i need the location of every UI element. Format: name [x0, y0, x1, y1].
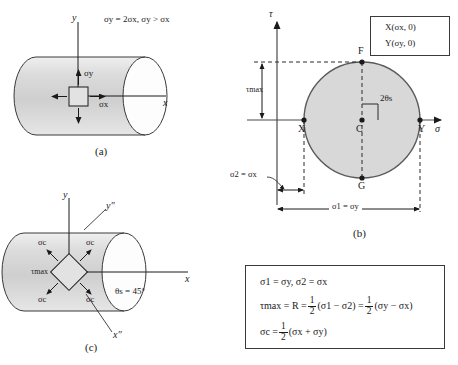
figure-b-tau-max-label: τmax	[246, 86, 263, 94]
equation-line-2: τmax = R =12(σ1 − σ2) =12(σy − σx)	[260, 296, 413, 317]
fraction-one-half-a: 12	[308, 296, 317, 317]
equation-line-3-lhs: σc =	[260, 326, 278, 337]
figure-a-drawing	[0, 0, 229, 182]
figure-b-point-f-label: F	[358, 46, 364, 56]
figure-b-caption: (b)	[353, 228, 366, 239]
fraction-one-half-c: 12	[279, 322, 288, 343]
figure-b-axis-tau-label: τ	[269, 9, 273, 19]
equation-line-2-rhs: (σy − σx)	[374, 300, 412, 311]
equation-line-2-mid: (σ1 − σ2) =	[317, 300, 363, 311]
legend-point-x: X(σx, 0)	[385, 23, 416, 32]
figure-a-caption: (a)	[95, 146, 107, 157]
figure-b-point-x-label: X	[298, 124, 305, 134]
figure-b-point-y-label: Y	[418, 124, 425, 134]
figure-b-point-c-label: C	[356, 124, 363, 134]
legend-point-y: Y(σy, 0)	[385, 39, 415, 48]
figure-c-theta-label: θs = 45°	[115, 287, 145, 296]
fraction-denominator-c: 2	[279, 333, 288, 343]
fraction-denominator-a: 2	[308, 307, 317, 317]
figure-b: τ σ X Y C F G 2θs τmax σ2 = σx σ1 = σy X…	[229, 0, 458, 250]
figure-c-axis-x-double-prime-label: x″	[113, 330, 122, 340]
figure-a-condition-text: σy = 2σx, σy > σx	[104, 15, 170, 24]
figure-a-sigma-y-label: σy	[84, 69, 93, 78]
figure-a-sigma-x-label: σx	[99, 100, 108, 109]
figure-c-sigma-c-top-left: σc	[38, 238, 46, 247]
figure-c-sigma-c-bottom-left: σc	[38, 295, 46, 304]
figure-b-dim-sigma1-label: σ1 = σy	[329, 202, 362, 211]
figure-c-sigma-c-top-right: σc	[86, 238, 94, 247]
equation-line-1: σ1 = σy, σ2 = σx	[260, 276, 327, 287]
figure-b-angle-2theta-label: 2θs	[380, 94, 392, 103]
figure-c-axis-y-double-prime-label: y″	[106, 201, 115, 211]
figure-c-sigma-c-bottom-right: σc	[86, 295, 94, 304]
fraction-one-half-b: 12	[365, 296, 374, 317]
figure-b-legend-box: X(σx, 0) Y(σy, 0)	[370, 16, 450, 56]
figure-c-axis-y-label: y	[63, 190, 67, 200]
figure-a: y x σy = 2σx, σy > σx σy σx (a)	[0, 0, 229, 182]
figure-c: y x y″ x″ θs = 45° τmax σc σc σc σc (c)	[0, 182, 229, 365]
figure-c-axis-x-label: x	[185, 274, 189, 284]
figure-c-caption: (c)	[85, 342, 97, 353]
equation-line-2-lhs: τmax = R =	[260, 300, 307, 311]
figure-b-axis-sigma-label: σ	[435, 124, 440, 134]
figure-b-point-g-label: G	[358, 181, 365, 191]
fraction-denominator-b: 2	[365, 307, 374, 317]
equation-box: σ1 = σy, σ2 = σx τmax = R =12(σ1 − σ2) =…	[245, 265, 445, 349]
equation-line-3: σc =12(σx + σy)	[260, 322, 327, 343]
equation-line-3-rhs: (σx + σy)	[289, 326, 327, 337]
figure-c-tau-max-label: τmax	[31, 268, 48, 276]
figure-a-axis-x-label: x	[163, 98, 167, 108]
figure-a-axis-y-label: y	[72, 13, 76, 23]
figure-b-dim-sigma2-label: σ2 = σx	[230, 170, 257, 179]
